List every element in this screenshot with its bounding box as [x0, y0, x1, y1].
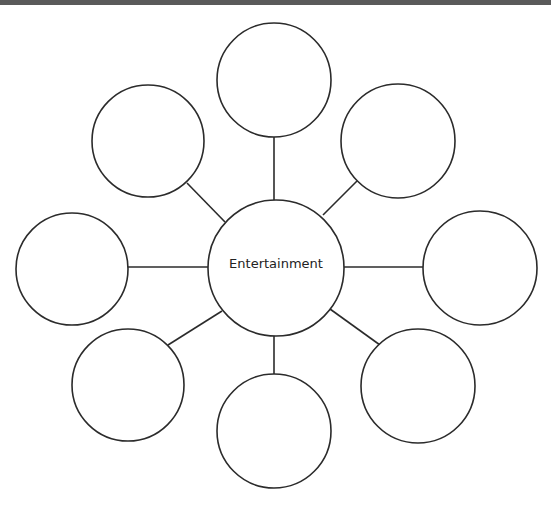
bubble-left	[16, 213, 128, 325]
center-topic-label: Entertainment	[207, 256, 345, 271]
bubble-map-canvas	[0, 0, 551, 506]
connector-top-right	[323, 181, 357, 215]
bubble-bottom-right	[361, 329, 475, 443]
bubble-top	[217, 23, 331, 137]
connector-top-left	[187, 183, 225, 222]
bubble-top-left	[92, 85, 204, 197]
bubble-bottom-left	[72, 329, 184, 441]
bubble-bottom	[217, 374, 331, 488]
bubble-top-right	[341, 84, 455, 198]
bubble-right	[423, 211, 537, 325]
connector-bottom-right	[330, 309, 380, 345]
connector-bottom-left	[168, 311, 222, 345]
